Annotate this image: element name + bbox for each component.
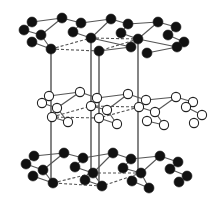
filled-atom [28,171,38,181]
lattice-svg [0,0,220,206]
filled-atom [144,183,154,193]
filled-atom [123,19,133,29]
open-atom [141,95,150,104]
open-atom [197,110,206,119]
open-atom [189,118,198,127]
filled-atom [127,176,137,186]
open-atom [181,102,190,111]
filled-atom [165,164,175,174]
open-atom [142,116,151,125]
filled-atom [27,17,37,27]
filled-atom [68,27,78,37]
open-atom [63,117,72,126]
open-atom [52,103,61,112]
dashed-cell-edge [51,49,99,51]
open-atom [86,101,95,110]
filled-atom [38,165,48,175]
open-atom [171,92,180,101]
filled-atom [48,178,58,188]
filled-atom [116,28,126,38]
filled-atom [76,18,86,28]
filled-atom [80,175,90,185]
filled-atom [70,162,80,172]
filled-atom [126,154,136,164]
filled-atom [46,44,56,54]
layer-middle [37,87,206,129]
filled-atom [153,17,163,27]
filled-atom [21,159,31,169]
open-atom [92,93,101,102]
filled-atom [94,46,104,56]
filled-atom [59,148,69,158]
bond [91,38,131,47]
filled-atom [142,48,152,58]
filled-atom [86,33,96,43]
open-atom [44,91,53,100]
filled-atom [19,25,29,35]
open-atom [150,107,159,116]
layer-bottom [21,148,192,193]
crystal-structure-diagram [0,0,220,206]
bond [138,39,177,47]
dashed-cell-edge [51,38,91,49]
filled-atom [172,42,182,52]
filled-atom [97,181,107,191]
filled-atom [106,14,116,24]
layer-top [19,13,189,58]
atom-layers [19,13,207,193]
open-atom [123,89,132,98]
filled-atom [171,22,181,32]
filled-atom [136,168,146,178]
open-atom [102,105,111,114]
filled-atom [108,148,118,158]
filled-atom [174,177,184,187]
open-atom [112,119,121,128]
filled-atom [155,151,165,161]
open-atom [134,102,143,111]
filled-atom [27,37,37,47]
filled-atom [173,157,183,167]
dashed-cell-edge [91,106,139,107]
filled-atom [133,34,143,44]
filled-atom [126,42,136,52]
filled-atom [118,163,128,173]
filled-atom [57,13,67,23]
filled-atom [163,30,173,40]
filled-atom [29,151,39,161]
filled-atom [78,153,88,163]
open-atom [37,98,46,107]
open-atom [159,120,168,129]
dashed-cell-edge [91,38,138,39]
filled-atom [36,30,46,40]
dashed-cell-edge [52,117,99,118]
open-atom [94,113,103,122]
open-atom [47,112,56,121]
filled-atom [88,168,98,178]
open-atom [75,87,84,96]
